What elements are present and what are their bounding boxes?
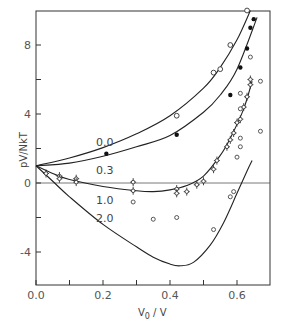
data-point xyxy=(235,121,239,125)
data-point xyxy=(212,228,216,232)
data-point xyxy=(175,133,179,137)
data-point xyxy=(258,79,262,83)
data-point xyxy=(131,189,135,193)
x-tick-label: 0.2 xyxy=(94,289,112,302)
data-point xyxy=(228,93,232,97)
y-axis-title: pV/NkT xyxy=(18,131,29,168)
data-point xyxy=(151,217,155,221)
data-point xyxy=(104,151,108,155)
data-point xyxy=(202,179,206,183)
data-point xyxy=(228,43,233,48)
data-point xyxy=(215,159,219,163)
data-point xyxy=(232,131,236,135)
data-point xyxy=(131,180,135,184)
theory-curves xyxy=(36,11,257,266)
data-point xyxy=(228,195,232,199)
data-point xyxy=(258,129,262,133)
data-markers xyxy=(43,8,262,231)
curve-0.3 xyxy=(36,17,257,165)
data-point xyxy=(238,136,242,140)
plot-frame xyxy=(36,11,270,285)
data-point xyxy=(249,78,253,82)
data-point xyxy=(239,117,243,121)
data-point xyxy=(211,70,216,75)
data-point xyxy=(195,183,199,187)
x-tick-label: 0.6 xyxy=(228,289,246,302)
y-tick-label: 4 xyxy=(24,108,31,121)
data-point xyxy=(238,91,242,95)
x-tick-label: 0.0 xyxy=(27,289,45,302)
data-point xyxy=(245,8,250,13)
y-tick-label: 8 xyxy=(24,39,31,52)
y-tick-label: -4 xyxy=(20,246,31,259)
data-point xyxy=(235,155,239,159)
curve-1.0 xyxy=(36,81,252,191)
chart-plot: 0.00.20.40.6-4048 0.00.31.02.0 V0 / V pV… xyxy=(0,0,282,324)
curve-2.0 xyxy=(36,161,252,266)
data-point xyxy=(252,17,256,21)
data-point xyxy=(185,190,189,194)
data-point xyxy=(229,138,233,142)
data-point xyxy=(245,46,249,50)
data-point xyxy=(131,200,135,204)
data-point xyxy=(218,67,223,72)
data-point xyxy=(212,167,216,171)
data-point xyxy=(175,192,179,196)
data-point xyxy=(238,145,242,149)
data-point xyxy=(245,95,249,99)
curve-label-0.3: 0.3 xyxy=(96,164,114,177)
curve-label-2.0: 2.0 xyxy=(96,212,114,225)
curve-label-1.0: 1.0 xyxy=(96,194,114,207)
data-point xyxy=(74,180,78,184)
y-tick-label: 0 xyxy=(24,177,31,190)
data-point xyxy=(174,113,179,118)
data-point xyxy=(175,216,179,220)
data-point xyxy=(225,145,229,149)
data-point xyxy=(58,177,62,181)
data-point xyxy=(248,55,252,59)
x-axis-title: V0 / V xyxy=(138,307,167,321)
data-point xyxy=(232,190,236,194)
data-point xyxy=(238,107,242,111)
data-point xyxy=(44,172,48,176)
x-tick-label: 0.4 xyxy=(161,289,179,302)
curve-0.0 xyxy=(36,11,250,166)
curve-label-0.0: 0.0 xyxy=(96,136,114,149)
data-point xyxy=(248,26,252,30)
data-point xyxy=(238,65,242,69)
